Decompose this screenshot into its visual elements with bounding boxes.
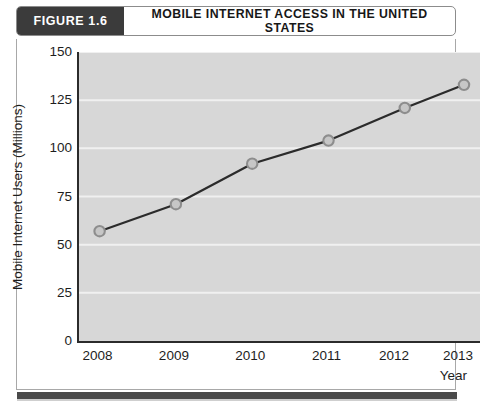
x-tick-label: 2008	[83, 348, 113, 363]
x-axis-title: Year	[440, 368, 467, 383]
data-point-marker	[171, 199, 181, 209]
x-tick-label: 2011	[312, 348, 341, 363]
y-tick-label: 75	[32, 190, 72, 204]
figure-title: MOBILE INTERNET ACCESS IN THE UNITED STA…	[124, 7, 455, 35]
x-tick-label: 2013	[443, 348, 473, 363]
y-tick-label: 150	[32, 45, 72, 59]
y-tick-label: 0	[32, 334, 72, 348]
footer-rule-shadow	[17, 399, 457, 401]
x-tick-label: 2009	[159, 348, 189, 363]
data-point-marker	[400, 103, 410, 113]
y-axis-title-label: Mobile Internet Users (Millions)	[10, 103, 25, 289]
line-chart-svg	[79, 52, 480, 341]
data-point-marker	[247, 159, 257, 169]
gridlines	[79, 52, 480, 293]
data-point-marker	[323, 135, 333, 145]
x-tick-label: 2012	[379, 348, 409, 363]
plot-area	[77, 52, 480, 343]
figure-header: FIGURE 1.6 MOBILE INTERNET ACCESS IN THE…	[16, 6, 456, 36]
y-tick-label: 100	[32, 141, 72, 155]
x-tick-label: 2010	[235, 348, 265, 363]
footer-rule	[17, 392, 457, 399]
y-axis-ticks: 150 125 100 75 50 25 0	[28, 0, 72, 412]
y-tick-label: 50	[32, 238, 72, 252]
figure-container: FIGURE 1.6 MOBILE INTERNET ACCESS IN THE…	[0, 0, 489, 412]
y-tick-label: 125	[32, 93, 72, 107]
y-axis-title: Mobile Internet Users (Millions)	[6, 52, 28, 341]
data-point-marker	[94, 226, 104, 236]
data-point-marker	[459, 80, 469, 90]
y-tick-label: 25	[32, 286, 72, 300]
